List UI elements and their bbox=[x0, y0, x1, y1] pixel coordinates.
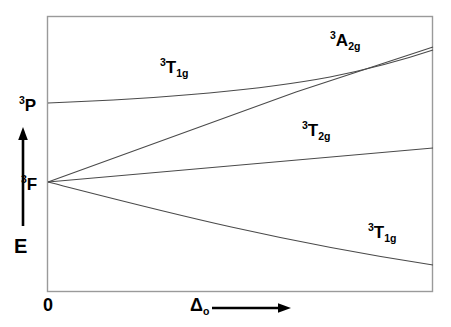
curve-label-3a2g-subscript: 2g bbox=[348, 40, 360, 52]
x-axis-origin-label: 0 bbox=[43, 296, 53, 314]
term-label-3p: 3P bbox=[19, 95, 36, 114]
curve-label-3t2g: 3T2g bbox=[302, 120, 331, 142]
curve-label-3t1g-p-subscript: 1g bbox=[176, 67, 188, 79]
energy-axis-label: E bbox=[14, 236, 27, 256]
curve-label-3a2g: 3A2g bbox=[330, 30, 360, 52]
plot-frame bbox=[48, 17, 433, 292]
term-3p-symbol: P bbox=[25, 96, 36, 115]
term-label-3f: 3F bbox=[21, 174, 37, 193]
curve-label-3a2g-symbol: A bbox=[336, 31, 348, 50]
orgel-diagram-figure: 3P 3F 3T1g 3A2g 3T2g 3T1g E 0 Δo bbox=[0, 0, 451, 327]
delta-symbol: Δ bbox=[190, 295, 203, 315]
diagram-canvas bbox=[0, 0, 451, 327]
curve-label-3t1g-f: 3T1g bbox=[368, 222, 397, 244]
curve-label-3t1g-p-symbol: T bbox=[166, 58, 176, 77]
curve-label-3t1g-f-symbol: T bbox=[374, 223, 384, 242]
curve-label-3t1g-p: 3T1g bbox=[160, 57, 189, 79]
curve-label-3t2g-subscript: 2g bbox=[318, 130, 330, 142]
curve-label-3t2g-symbol: T bbox=[308, 121, 318, 140]
curve-label-3t1g-f-subscript: 1g bbox=[384, 232, 396, 244]
delta-subscript: o bbox=[203, 305, 209, 317]
x-axis-label: Δo bbox=[190, 296, 209, 317]
delta-axis-arrow bbox=[212, 303, 291, 313]
term-3f-symbol: F bbox=[27, 175, 37, 194]
